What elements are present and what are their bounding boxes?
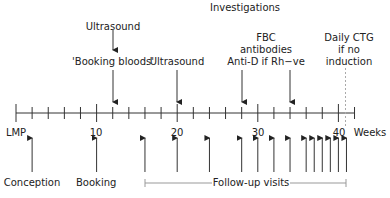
antibodies-label: antibodies (236, 44, 296, 56)
timeline-diagram (0, 0, 390, 198)
ctg-label-1: Daily CTG (319, 32, 379, 44)
ctg-label-3: induction (319, 56, 379, 68)
fbc-label: FBC (236, 32, 296, 44)
tick-label-20: 20 (167, 127, 187, 139)
booking-bloods-label: 'Booking bloods' (68, 56, 158, 68)
visit-arrows (32, 138, 346, 172)
follow-up-label: Follow-up visits (206, 177, 296, 189)
weeks-label: Weeks (350, 127, 390, 139)
booking-label: Booking (76, 177, 116, 189)
tick-label-30: 30 (248, 127, 268, 139)
title: Investigations (190, 2, 300, 14)
conception-label: Conception (2, 177, 62, 189)
ctg-label-2: if no (319, 44, 379, 56)
ultrasound-label: Ultrasound (83, 21, 143, 33)
tick-label-10: 10 (86, 127, 106, 139)
lmp-label: LMP (4, 127, 28, 139)
ultrasound-20-label: Ultrasound (147, 56, 207, 68)
tick-label-40: 40 (329, 127, 349, 139)
timeline-axis (16, 104, 355, 122)
antid-label: Anti-D if Rh−ve (226, 56, 306, 68)
